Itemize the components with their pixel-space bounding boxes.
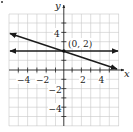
y-tick-label: −2 bbox=[49, 85, 62, 95]
x-tick-label: 4 bbox=[99, 75, 105, 85]
y-tick-label: −4 bbox=[49, 104, 63, 114]
x-tick-label: −4 bbox=[17, 75, 31, 85]
x-axis-label: x bbox=[124, 68, 130, 79]
point-label: (0, 2) bbox=[68, 39, 92, 49]
y-axis-label: y bbox=[54, 0, 61, 11]
x-tick-label: 2 bbox=[80, 75, 86, 85]
coordinate-graph: −4 −2 2 4 4 −2 −4 x y (0, 2) bbox=[0, 0, 133, 132]
y-tick-label: 4 bbox=[54, 29, 60, 39]
corner-bullet bbox=[1, 1, 3, 3]
x-tick-label: −2 bbox=[36, 75, 49, 85]
intersection-point bbox=[62, 49, 66, 53]
